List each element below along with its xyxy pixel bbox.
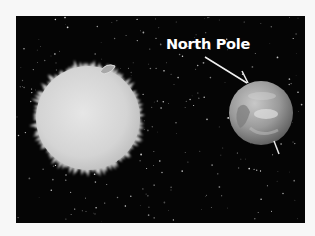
- north-pole-label: North Pole: [166, 36, 250, 52]
- earth: [229, 81, 293, 145]
- space-diagram: [0, 0, 315, 236]
